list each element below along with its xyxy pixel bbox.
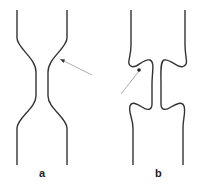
- panel-b-left-wall: [129, 10, 153, 165]
- panel-a-left-wall: [17, 10, 36, 165]
- panel-a-label: a: [39, 167, 45, 179]
- panel-b-label: b: [155, 167, 162, 179]
- panel-a-right-wall: [48, 10, 67, 165]
- panel-b-arrow: [121, 68, 141, 94]
- panel-b-drawing: [129, 10, 187, 165]
- panel-a-arrow: [60, 59, 92, 75]
- figure-canvas: [0, 0, 198, 187]
- panel-b-right-wall: [161, 10, 187, 165]
- panel-a-drawing: [17, 10, 67, 165]
